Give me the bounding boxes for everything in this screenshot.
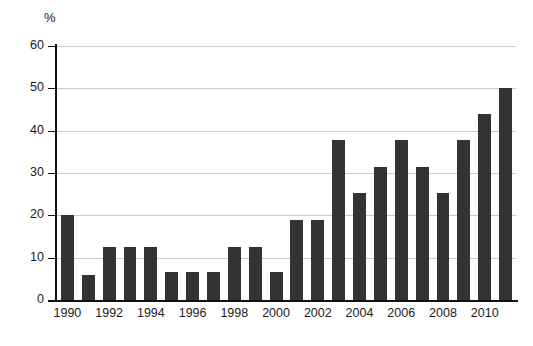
bar xyxy=(290,220,303,300)
x-axis-tick-label: 1992 xyxy=(89,306,129,320)
bar xyxy=(353,193,366,300)
bar xyxy=(311,220,324,300)
bar xyxy=(416,167,429,300)
bar xyxy=(478,114,491,300)
bar-series xyxy=(57,46,516,300)
x-axis-tick-label: 2006 xyxy=(381,306,421,320)
y-axis-unit-label: % xyxy=(44,10,56,25)
x-axis-tick-label: 1996 xyxy=(173,306,213,320)
x-axis-tick-label: 2010 xyxy=(465,306,505,320)
x-axis-tick-label: 1998 xyxy=(214,306,254,320)
x-axis-tick-label: 2004 xyxy=(340,306,380,320)
bar xyxy=(124,247,137,300)
x-axis-tick-label: 1994 xyxy=(131,306,171,320)
bar xyxy=(395,140,408,300)
x-axis-tick-label: 2008 xyxy=(423,306,463,320)
x-axis-line xyxy=(48,300,518,302)
y-axis-tick-label: 30 xyxy=(14,165,44,179)
y-axis-tick-label: 50 xyxy=(14,80,44,94)
bar xyxy=(186,272,199,300)
y-axis-tick-label: 10 xyxy=(14,250,44,264)
bar xyxy=(249,247,262,300)
bar xyxy=(437,193,450,300)
bar xyxy=(374,167,387,300)
bar xyxy=(457,140,470,300)
bar xyxy=(144,247,157,300)
bar xyxy=(61,215,74,300)
bar xyxy=(228,247,241,300)
y-axis-tick-label: 20 xyxy=(14,207,44,221)
bar-chart: % 0102030405060 199019921994199619982000… xyxy=(0,0,533,346)
x-axis-tick-label: 2000 xyxy=(256,306,296,320)
bar xyxy=(499,88,512,300)
bar xyxy=(165,272,178,300)
bar xyxy=(270,272,283,300)
x-axis-tick-label: 2002 xyxy=(298,306,338,320)
bar xyxy=(103,247,116,300)
x-axis-tick-label: 1990 xyxy=(47,306,87,320)
y-axis-tick-label: 0 xyxy=(14,292,44,306)
y-axis-tick-label: 60 xyxy=(14,38,44,52)
bar xyxy=(82,275,95,300)
y-axis-tick-label: 40 xyxy=(14,123,44,137)
bar xyxy=(332,140,345,300)
bar xyxy=(207,272,220,300)
